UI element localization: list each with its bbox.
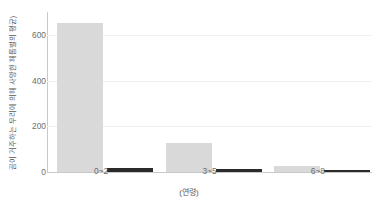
y-tick-label: 400 — [6, 76, 46, 86]
x-axis-title: (연령) — [0, 186, 378, 197]
y-axis-line — [47, 12, 48, 172]
y-tick-label: 600 — [6, 30, 46, 40]
bar-chart: 곰이 거주하는 무리에 의해 사망한 해롭벌의 평균) 0200400600 0… — [0, 0, 378, 214]
y-tick-label: 0 — [6, 167, 46, 177]
y-tick-label: 200 — [6, 121, 46, 131]
x-tick-label: 0~2 — [56, 166, 146, 176]
x-tick-label: 6~8 — [273, 166, 363, 176]
x-tick-label: 3~5 — [165, 166, 255, 176]
bar-0~2-series-1 — [57, 23, 103, 172]
plot-area — [47, 12, 372, 172]
